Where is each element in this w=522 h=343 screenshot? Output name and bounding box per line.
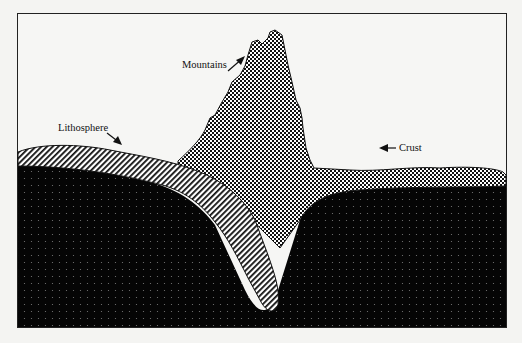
label-crust: Crust xyxy=(399,142,422,153)
subduction-diagram: Mountains Lithosphere Crust xyxy=(0,0,522,343)
label-lithosphere: Lithosphere xyxy=(58,122,108,133)
label-mountains: Mountains xyxy=(182,59,227,70)
